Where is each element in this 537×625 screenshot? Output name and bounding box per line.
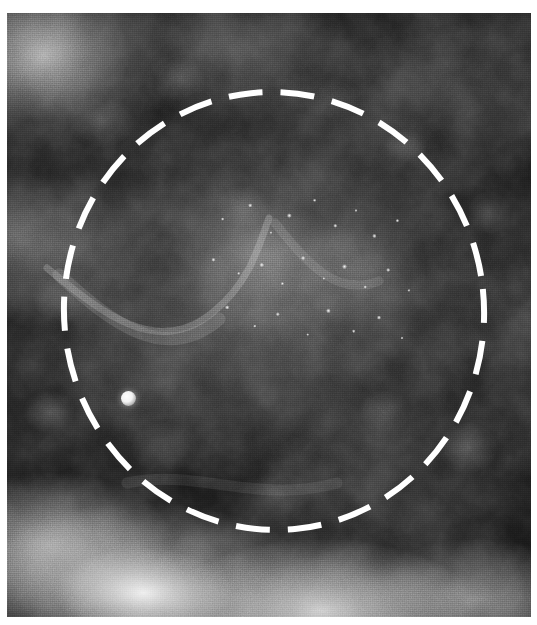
solitary-calcification-marker [121,391,136,406]
radiograph-plate[interactable] [7,13,531,617]
image-viewer [0,0,537,625]
scan-raster-layer [7,13,531,617]
